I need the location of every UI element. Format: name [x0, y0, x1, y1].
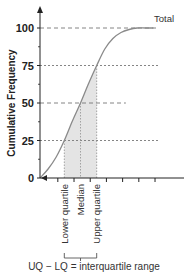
y-tick-label-75: 75 — [22, 60, 34, 72]
quartile-label-median: Median — [75, 184, 86, 215]
y-axis-title: Cumulative Frequency — [6, 49, 17, 157]
y-tick-label-100: 100 — [16, 22, 34, 34]
iqr-bracket — [64, 253, 96, 261]
y-tick-label-25: 25 — [22, 135, 34, 147]
total-label: Total — [154, 13, 174, 24]
y-tick-label-50: 50 — [22, 97, 34, 109]
y-axis-arrow-icon — [37, 6, 43, 13]
y-tick-label-0: 0 — [28, 172, 34, 184]
quartile-label-lower-quartile: Lower quartile — [59, 184, 70, 244]
cumulative-frequency-chart: 0255075100Lower quartileMedianUpper quar… — [0, 0, 189, 276]
iqr-formula-note: UQ − LQ = interquartile range — [28, 261, 160, 272]
iqr-bracket-line — [64, 253, 96, 261]
quartile-label-upper-quartile: Upper quartile — [91, 184, 102, 244]
